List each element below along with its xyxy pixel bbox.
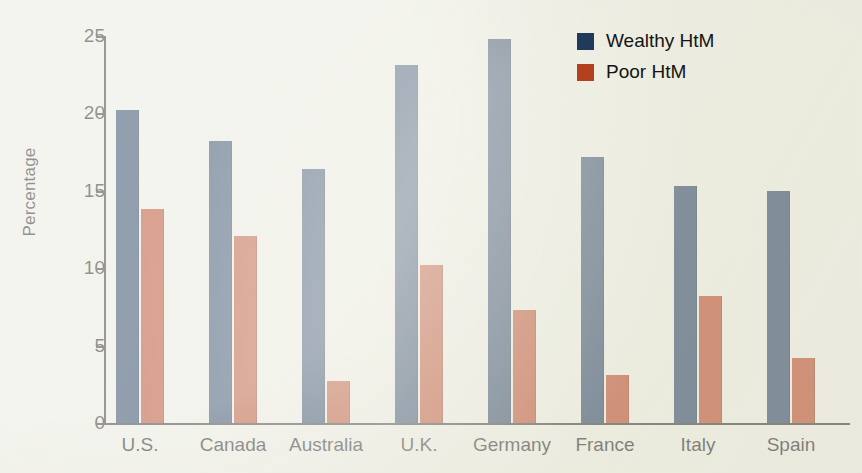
bar <box>513 310 536 423</box>
x-category-label: U.K. <box>401 434 438 456</box>
bar <box>209 141 232 423</box>
bar-group <box>302 36 350 423</box>
bar <box>606 375 629 423</box>
bar <box>302 169 325 423</box>
bar-group <box>488 36 536 423</box>
y-tick-mark <box>96 423 105 425</box>
bar <box>699 296 722 423</box>
bar-group <box>581 36 629 423</box>
legend-swatch-icon <box>577 33 594 50</box>
y-axis-title: Percentage <box>20 102 40 282</box>
x-category-label: France <box>575 434 634 456</box>
bar-group <box>674 36 722 423</box>
x-category-label: Italy <box>681 434 716 456</box>
legend-swatch-icon <box>577 64 594 81</box>
legend-label: Poor HtM <box>606 61 686 83</box>
plot-area <box>106 36 850 423</box>
bar-group <box>395 36 443 423</box>
bar <box>420 265 443 423</box>
bar <box>234 236 257 423</box>
bar <box>581 157 604 423</box>
y-tick-mark <box>96 36 105 38</box>
y-tick-mark <box>96 113 105 115</box>
legend-label: Wealthy HtM <box>606 30 714 52</box>
bar-chart: 0510152025 Percentage U.S.CanadaAustrali… <box>0 0 862 473</box>
bar <box>327 381 350 423</box>
x-category-label: Spain <box>767 434 816 456</box>
bar <box>395 65 418 423</box>
bar <box>488 39 511 423</box>
y-tick-mark <box>96 346 105 348</box>
bar <box>792 358 815 423</box>
legend-item: Wealthy HtM <box>577 30 714 52</box>
x-axis-line <box>104 423 850 425</box>
bar-group <box>767 36 815 423</box>
bar <box>116 110 139 423</box>
bar <box>141 209 164 423</box>
x-category-label: Germany <box>473 434 551 456</box>
y-tick-mark <box>96 268 105 270</box>
bar <box>767 191 790 423</box>
x-category-label: Canada <box>200 434 267 456</box>
x-category-label: U.S. <box>122 434 159 456</box>
bar-group <box>209 36 257 423</box>
bar <box>674 186 697 423</box>
y-tick-mark <box>96 191 105 193</box>
bar-group <box>116 36 164 423</box>
chart-legend: Wealthy HtMPoor HtM <box>577 30 714 92</box>
x-category-label: Australia <box>289 434 363 456</box>
legend-item: Poor HtM <box>577 61 714 83</box>
